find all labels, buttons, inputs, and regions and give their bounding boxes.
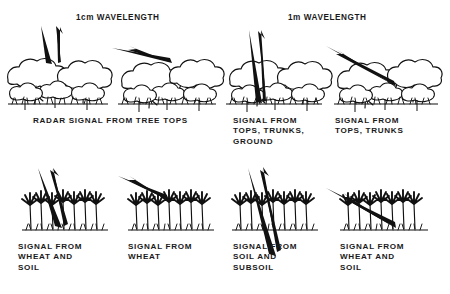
caption-tree-tops: RADAR SIGNAL FROM TREE TOPS xyxy=(33,116,188,126)
caption-wheat: SIGNAL FROM WHEAT xyxy=(128,242,192,263)
radar-beam-reflected xyxy=(128,46,170,62)
caption-tops-trunks: SIGNAL FROM TOPS, TRUNKS xyxy=(335,116,404,137)
panel-wheat-1cm-shallow xyxy=(118,176,214,230)
panel-trees-1cm-steep xyxy=(8,26,112,110)
panel-trees-1cm-shallow xyxy=(112,46,224,112)
caption-wheat-and-soil-1: SIGNAL FROM WHEAT AND SOIL xyxy=(18,242,82,273)
panel-wheat-1cm-steep xyxy=(22,168,108,230)
wheat-stalks xyxy=(136,202,203,229)
wheat-field xyxy=(128,190,210,229)
panel-trees-1m-steep xyxy=(226,30,332,112)
radar-beam-incoming xyxy=(112,48,172,63)
wheat-field xyxy=(340,190,422,229)
panel-trees-1m-shallow xyxy=(326,46,442,112)
radar-vegetation-diagram: 1cm WAVELENGTH 1m WAVELENGTH xyxy=(0,0,450,294)
caption-soil-and-subsoil: SIGNAL FROM SOIL AND SUBSOIL xyxy=(233,242,297,273)
radar-beam-reflected xyxy=(56,26,63,63)
panel-wheat-1m-shallow xyxy=(326,188,428,230)
ground-line xyxy=(128,224,214,230)
caption-wheat-and-soil-2: SIGNAL FROM WHEAT AND SOIL xyxy=(340,242,404,273)
caption-tops-trunks-ground: SIGNAL FROM TOPS, TRUNKS, GROUND xyxy=(233,116,304,147)
